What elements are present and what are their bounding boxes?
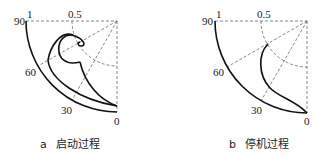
label-90: 90 <box>14 15 26 27</box>
label-0: 0 <box>304 115 310 127</box>
label-60: 60 <box>25 66 37 78</box>
label-0.5: 0.5 <box>68 8 82 20</box>
grid-line <box>72 21 117 100</box>
caption-letter-a: a <box>40 138 47 151</box>
stop-curve <box>261 44 307 113</box>
grid-line <box>261 21 307 101</box>
caption-a: 启动过程 <box>56 138 100 151</box>
label-1: 1 <box>27 8 33 20</box>
panel-b <box>215 21 307 113</box>
start-curve-lower <box>48 60 117 106</box>
label-1: 1 <box>216 8 222 20</box>
diagram-canvas: 90 1 0.5 60 30 0 a 启动过程 90 1 0.5 60 30 0… <box>0 0 317 158</box>
label-60: 60 <box>213 66 225 78</box>
label-30: 30 <box>251 104 263 116</box>
start-curve <box>80 62 117 106</box>
label-90: 90 <box>202 15 214 27</box>
label-30: 30 <box>61 104 73 116</box>
caption-letter-b: b <box>229 138 236 151</box>
start-curve-loop <box>59 35 84 63</box>
panel-a <box>26 21 117 112</box>
label-0: 0 <box>114 115 120 127</box>
label-0.5: 0.5 <box>257 8 271 20</box>
caption-b: 停机过程 <box>245 137 289 151</box>
